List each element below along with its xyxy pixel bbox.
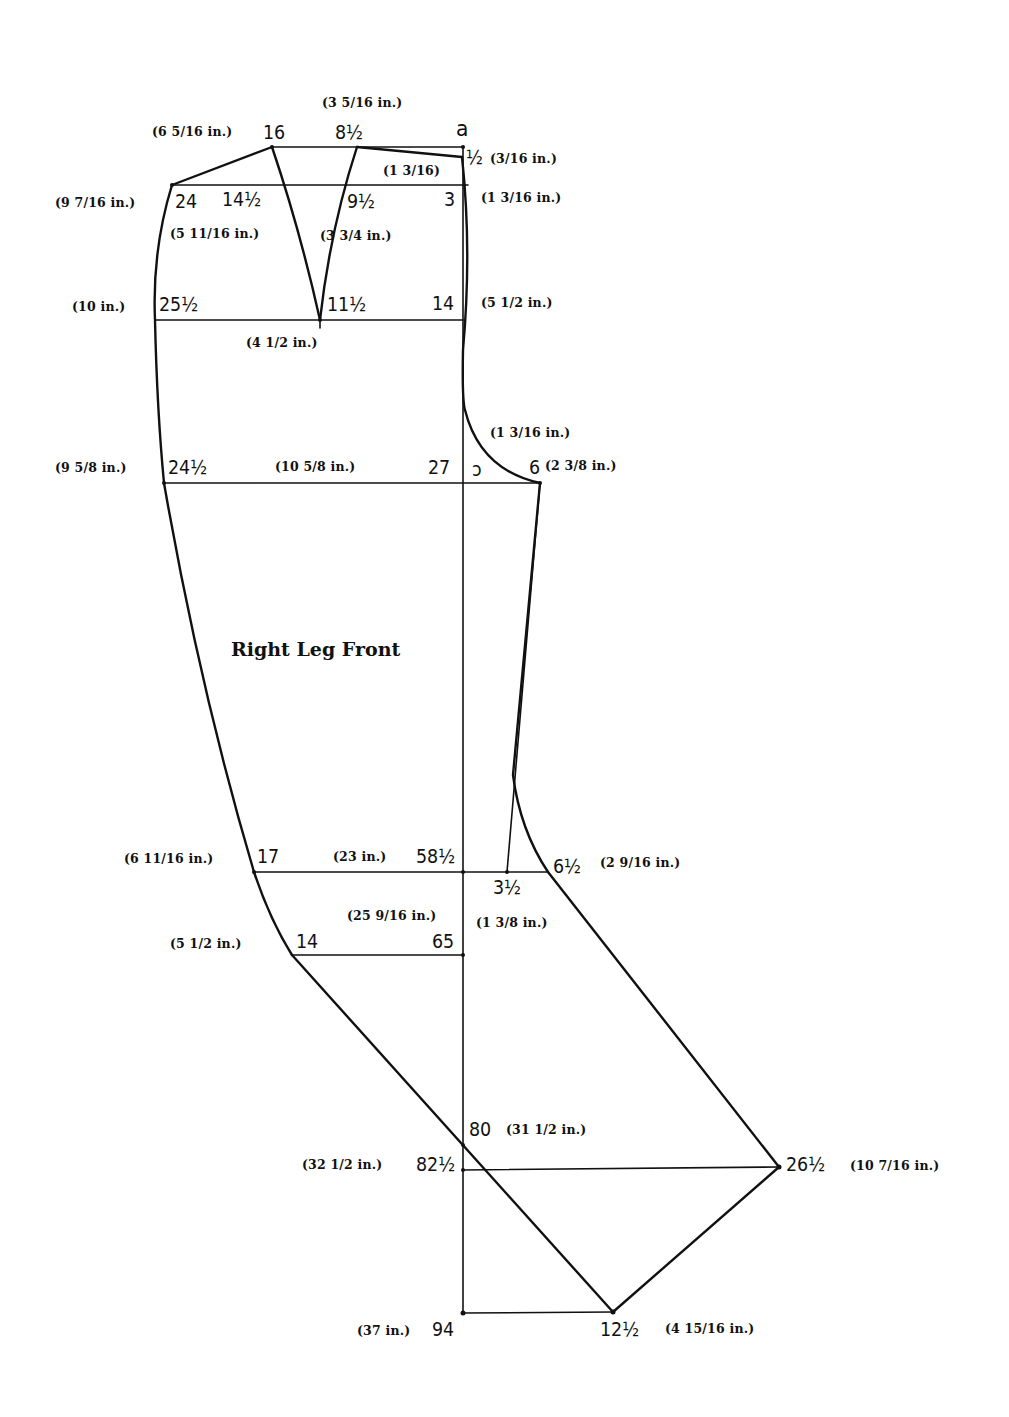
pattern-drawing [0, 0, 1009, 1417]
measure-24: (9 7/16 in.) [55, 197, 135, 210]
point-3: 3 [444, 190, 455, 209]
point-6: 6 [529, 458, 540, 477]
point-a: a [456, 118, 468, 140]
measure-11-5: (4 1/2 in.) [246, 337, 318, 350]
point-58-5: 58½ [416, 847, 455, 866]
point-14-upper: 14 [432, 294, 454, 313]
point-0-5: ½ [466, 148, 483, 167]
point-17: 17 [257, 847, 279, 866]
measure-80: (31 1/2 in.) [506, 1124, 586, 1137]
measure-94: (37 in.) [357, 1325, 410, 1338]
measure-14-5: (5 11/16 in.) [170, 228, 259, 241]
waistline-left [172, 147, 272, 185]
point-82-5: 82½ [416, 1155, 455, 1174]
measure-14-upper: (5 1/2 in.) [481, 297, 553, 310]
measure-26-5: (10 7/16 in.) [850, 1160, 939, 1173]
measure-27: (10 5/8 in.) [275, 461, 355, 474]
measure-crotch-curve: (1 3/16 in.) [490, 427, 570, 440]
measure-3-5: (1 3/8 in.) [476, 917, 548, 930]
diagram-title: Right Leg Front [231, 640, 400, 659]
measure-14-lower: (5 1/2 in.) [170, 938, 242, 951]
point-14-lower: 14 [296, 932, 318, 951]
measure-65: (25 9/16 in.) [347, 910, 436, 923]
point-80: 80 [469, 1120, 491, 1139]
point-27: 27 [428, 458, 450, 477]
measure-9-5: (3 3/4 in.) [320, 230, 392, 243]
curve-mark: ↄ [472, 460, 482, 479]
point-14-5: 14½ [222, 190, 261, 209]
measure-8-5: (3 5/16 in.) [322, 97, 402, 110]
point-8-5: 8½ [335, 123, 363, 142]
measure-12-5: (4 15/16 in.) [665, 1323, 754, 1336]
point-24: 24 [175, 192, 197, 211]
point-24-5: 24½ [168, 458, 207, 477]
measure-16: (6 5/16 in.) [152, 126, 232, 139]
point-11-5: 11½ [327, 295, 366, 314]
measure-25-5: (10 in.) [72, 301, 125, 314]
dart-left-leg [272, 147, 320, 320]
hem-diagonal [613, 1167, 779, 1312]
waistline-right [357, 147, 462, 157]
point-16: 16 [263, 123, 285, 142]
measure-3: (1 3/16 in.) [481, 192, 561, 205]
point-6-5: 6½ [553, 857, 581, 876]
measure-58-5: (23 in.) [333, 851, 386, 864]
bottom-line [463, 1312, 613, 1313]
point-25-5: 25½ [159, 295, 198, 314]
measure-6-5: (2 9/16 in.) [600, 857, 680, 870]
measure-6: (2 3/8 in.) [545, 460, 617, 473]
point-12-5: 12½ [600, 1320, 639, 1339]
point-65: 65 [432, 932, 454, 951]
point-26-5: 26½ [786, 1155, 825, 1174]
measure-82-5: (32 1/2 in.) [302, 1159, 382, 1172]
inseam-curve [513, 483, 548, 872]
measure-1-3-16: (1 3/16) [383, 165, 440, 178]
measure-17: (6 11/16 in.) [124, 853, 213, 866]
measure-0-5: (3/16 in.) [490, 153, 557, 166]
point-94: 94 [432, 1320, 454, 1339]
point-9-5: 9½ [347, 192, 375, 211]
foot-line [463, 1167, 779, 1170]
measure-24-5: (9 5/8 in.) [55, 462, 127, 475]
point-3-5: 3½ [493, 878, 521, 897]
